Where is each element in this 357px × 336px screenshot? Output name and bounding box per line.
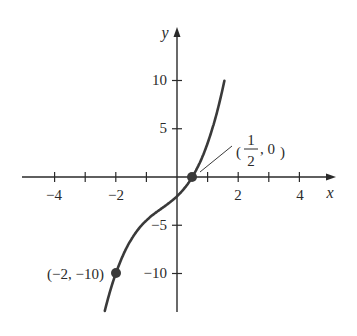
x-tick-label: −4 (46, 187, 62, 203)
y-axis-arrow-icon (174, 27, 181, 37)
point-neg2-neg10 (111, 268, 121, 278)
paren-close: ) (280, 144, 285, 161)
y-tick-label: −10 (144, 265, 167, 281)
y-tick-label: −5 (151, 217, 167, 233)
point-x-intercept (187, 172, 197, 182)
y-tick-label: 10 (152, 72, 167, 88)
fraction-numerator: 1 (247, 132, 255, 148)
annotation-rest: , 0 (260, 141, 275, 157)
x-tick-label: 4 (296, 187, 304, 203)
y-tick-label: 5 (160, 120, 168, 136)
paren-open: ( (236, 144, 241, 161)
y-axis-label: y (159, 24, 169, 42)
x-tick-label: −2 (108, 187, 124, 203)
annotation-neg2-neg10: (−2, −10) (47, 266, 104, 283)
annotation-x-intercept: ( 1 2 , 0 ) (236, 132, 285, 169)
x-axis-label: x (325, 184, 333, 201)
chart-canvas: −4 −2 2 4 10 5 −5 −10 x y ( 1 2 , 0 ) (−… (0, 0, 357, 336)
x-tick-label: 2 (234, 187, 242, 203)
fraction-denominator: 2 (247, 153, 255, 169)
x-axis-arrow-icon (326, 174, 336, 181)
